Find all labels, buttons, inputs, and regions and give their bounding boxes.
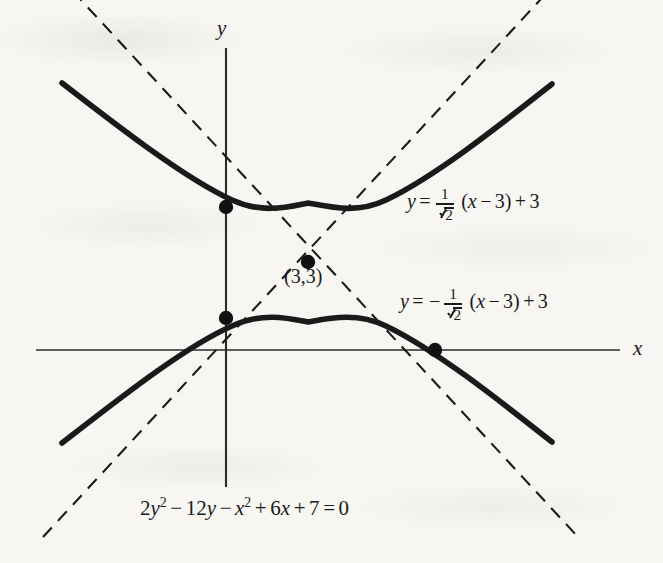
asymptote-upper-minus: − — [477, 190, 495, 212]
caption-12y-var: y — [207, 496, 216, 520]
caption-coeff-2: 2 — [140, 496, 151, 520]
asymptote-upper-y: y — [407, 190, 416, 212]
center-point-label: (3,3) — [284, 266, 322, 286]
caption-const-7: 7 — [309, 496, 320, 520]
square-root-icon: 2 — [437, 205, 453, 224]
caption-minus-2: − — [216, 496, 235, 520]
asymptote-lower-numerator: 1 — [444, 286, 462, 302]
asymptote-lower-close-paren: ) — [513, 290, 520, 312]
marked-point-x-intercept — [428, 343, 442, 357]
y-axis-label: y — [217, 18, 226, 39]
asymptote-lower-minus: − — [485, 290, 503, 312]
asymptote-lower-plus: + — [520, 290, 538, 312]
hyperbola-lower-branch — [62, 317, 552, 443]
caption-coeff-12: 12 — [186, 496, 207, 520]
caption-minus-1: − — [167, 496, 186, 520]
asymptote-upper-fraction: 1 2 — [436, 186, 454, 224]
marked-point-y-intercept-lower — [219, 311, 233, 325]
asymptote-lower-three: 3 — [503, 290, 513, 312]
caption-y-exponent: 2 — [160, 495, 167, 510]
asymptote-upper-denominator: 2 — [436, 205, 454, 224]
asymptote-upper-equation: y= 1 2 (x−3)+3 — [407, 186, 540, 224]
caption-equals: = — [320, 496, 339, 520]
caption-x-var: x — [235, 496, 244, 520]
caption-coeff-6: 6 — [270, 496, 281, 520]
asymptote-upper-equals: = — [416, 190, 434, 212]
asymptote-upper-three: 3 — [495, 190, 505, 212]
asymptote-lower-sign: − — [427, 290, 442, 312]
asymptote-lower-equation: y=− 1 2 (x−3)+3 — [400, 286, 548, 324]
asymptote-lower-equals: = — [409, 290, 427, 312]
caption-6x-var: x — [281, 496, 290, 520]
asymptote-upper-plus: + — [511, 190, 529, 212]
caption-plus-1: + — [251, 496, 270, 520]
asymptote-upper-offset: 3 — [530, 190, 540, 212]
asymptote-upper-open-paren: ( — [456, 190, 468, 212]
caption-plus-2: + — [290, 496, 309, 520]
asymptote-upper-x: x — [468, 190, 477, 212]
hyperbola-figure: y x (3,3) y= 1 2 (x−3)+3 y=− 1 2 (x−3)+3… — [0, 0, 663, 563]
asymptote-lower-denominator: 2 — [444, 305, 462, 324]
marked-point-y-intercept-upper — [219, 200, 233, 214]
asymptote-lower-y: y — [400, 290, 409, 312]
square-root-icon: 2 — [445, 305, 461, 324]
asymptote-lower-open-paren: ( — [464, 290, 476, 312]
x-axis-label: x — [633, 338, 642, 359]
plot-canvas — [0, 0, 663, 563]
caption-rhs-0: 0 — [339, 496, 350, 520]
caption-equation: 2y2−12y−x2+6x+7=0 — [140, 498, 349, 519]
asymptote-lower-fraction: 1 2 — [444, 286, 462, 324]
caption-y-var: y — [151, 496, 160, 520]
asymptote-lower-offset: 3 — [538, 290, 548, 312]
asymptote-upper-numerator: 1 — [436, 186, 454, 202]
asymptote-lower-x: x — [476, 290, 485, 312]
